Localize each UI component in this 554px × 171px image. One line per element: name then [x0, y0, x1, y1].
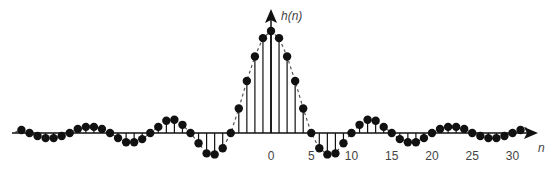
sample-dot: [484, 134, 492, 142]
sample-dot: [347, 129, 355, 137]
sample-dot: [122, 138, 130, 146]
sample-dot: [219, 144, 227, 152]
sample-dot: [283, 52, 291, 60]
sample-dot: [355, 121, 363, 129]
sample-dot: [388, 129, 396, 137]
sample-dot: [194, 139, 202, 147]
sample-dot: [17, 126, 25, 134]
sample-dot: [396, 135, 404, 143]
sample-dot: [170, 116, 178, 124]
x-tick-label: 30: [506, 149, 520, 163]
sample-dot: [251, 52, 259, 60]
sample-dot: [492, 134, 500, 142]
sample-dot: [90, 123, 98, 131]
sample-dot: [315, 144, 323, 152]
sample-dot: [49, 134, 57, 142]
sample-dot: [146, 129, 154, 137]
sample-dot: [178, 121, 186, 129]
sample-dot: [476, 132, 484, 140]
sample-dot: [371, 117, 379, 125]
sample-dot: [259, 34, 267, 42]
sample-dot: [33, 132, 41, 140]
sample-dot: [267, 27, 275, 35]
sample-dot: [154, 123, 162, 131]
sample-dot: [404, 138, 412, 146]
sample-dot: [331, 149, 339, 157]
x-tick-label: 15: [385, 149, 399, 163]
sample-dot: [436, 125, 444, 133]
sample-dot: [66, 129, 74, 137]
x-tick-label: 0: [268, 149, 275, 163]
sample-dot: [235, 104, 243, 112]
sample-dot: [363, 116, 371, 124]
sample-dot: [210, 150, 218, 158]
sample-dot: [500, 132, 508, 140]
sample-dot: [380, 123, 388, 131]
sample-dot: [420, 134, 428, 142]
sample-dot: [468, 129, 476, 137]
y-axis-label: h(n): [281, 9, 302, 23]
sample-dot: [227, 129, 235, 137]
sample-dot: [114, 134, 122, 142]
sample-dot: [98, 125, 106, 133]
sample-dot: [291, 77, 299, 85]
x-tick-label: 5: [308, 149, 315, 163]
sample-dot: [41, 134, 49, 142]
x-tick-label: 25: [466, 149, 480, 163]
sample-dot: [508, 129, 516, 137]
sample-dot: [25, 129, 33, 137]
sample-dot: [130, 138, 138, 146]
x-tick-label: 10: [345, 149, 359, 163]
x-tick-label: 20: [425, 149, 439, 163]
sample-dot: [74, 125, 82, 133]
sample-dot: [106, 129, 114, 137]
sample-dot: [444, 123, 452, 131]
sample-dot: [162, 117, 170, 125]
sample-dot: [58, 132, 66, 140]
sample-dot: [138, 135, 146, 143]
sample-dot: [516, 126, 524, 134]
sample-dot: [186, 129, 194, 137]
sample-dot: [339, 139, 347, 147]
sample-dot: [202, 149, 210, 157]
stem-plot: 051015202530 h(n) n: [0, 0, 554, 171]
x-tick-labels: 051015202530: [268, 149, 520, 163]
x-axis-label: n: [538, 141, 545, 155]
sample-dot: [82, 123, 90, 131]
sample-dot: [243, 77, 251, 85]
sample-dot: [452, 123, 460, 131]
sample-dot: [307, 129, 315, 137]
sample-dot: [428, 129, 436, 137]
sample-dot: [323, 150, 331, 158]
sample-dot: [275, 34, 283, 42]
sample-dot: [460, 125, 468, 133]
sample-dot: [412, 138, 420, 146]
sample-dot: [299, 104, 307, 112]
